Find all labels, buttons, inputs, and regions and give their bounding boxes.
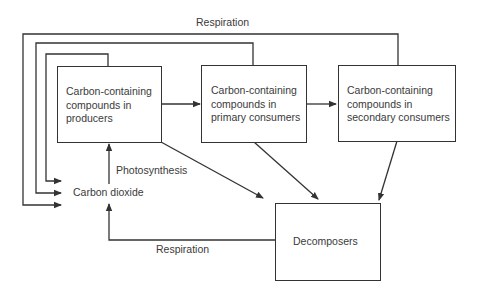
primary-line-2: compounds in — [211, 98, 300, 112]
producers-line-1: Carbon-containing — [66, 85, 152, 99]
respiration-top-label: Respiration — [196, 16, 249, 28]
connector-lines — [0, 0, 477, 292]
secondary-consumers-node: Carbon-containing compounds in secondary… — [338, 65, 456, 142]
secondary-to-decomposers-arrow — [379, 141, 397, 200]
primary-consumers-node: Carbon-containing compounds in primary c… — [201, 65, 307, 143]
secondary-line-2: compounds in — [347, 98, 450, 112]
primary-line-1: Carbon-containing — [211, 84, 300, 98]
primary-line-3: primary consumers — [211, 111, 300, 125]
secondary-line-1: Carbon-containing — [347, 84, 450, 98]
carbon-dioxide-node: Carbon dioxide — [73, 186, 144, 198]
respiration-decomposers-line — [109, 204, 275, 240]
decomposers-node: Decomposers — [275, 203, 381, 281]
producers-line-3: producers — [66, 112, 152, 126]
producers-node: Carbon-containing compounds in producers — [57, 66, 162, 143]
producers-line-2: compounds in — [66, 99, 152, 113]
respiration-bottom-label: Respiration — [156, 243, 209, 255]
photosynthesis-label: Photosynthesis — [116, 164, 187, 176]
decomposers-label: Decomposers — [293, 235, 358, 249]
secondary-line-3: secondary consumers — [347, 111, 450, 125]
primary-to-decomposers-arrow — [254, 142, 318, 199]
